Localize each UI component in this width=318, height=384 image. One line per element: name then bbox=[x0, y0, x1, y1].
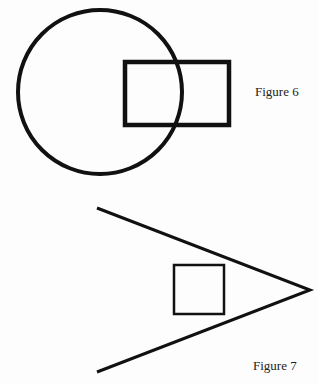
figure-drawing bbox=[0, 0, 318, 384]
circle-shape bbox=[18, 10, 182, 174]
square-shape bbox=[174, 265, 224, 314]
figure-6-caption: Figure 6 bbox=[255, 84, 299, 100]
angle-lines bbox=[97, 208, 310, 372]
figure-6 bbox=[18, 10, 229, 174]
figure-7 bbox=[97, 208, 310, 372]
page: Figure 6 Figure 7 bbox=[0, 0, 318, 384]
figure-7-caption: Figure 7 bbox=[253, 358, 297, 374]
